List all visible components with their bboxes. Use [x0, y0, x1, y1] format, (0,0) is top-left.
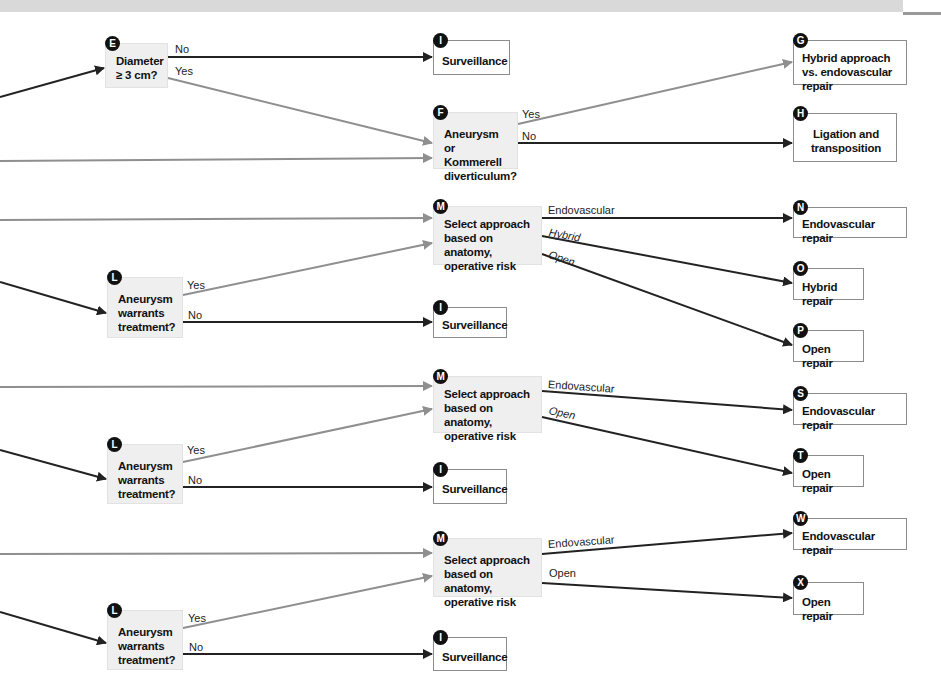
marker-L-icon: L — [107, 437, 122, 452]
edge-label-E-yes: Yes — [175, 65, 193, 77]
node-T-label: Open repair — [802, 468, 833, 494]
edge-label-L1-no: No — [188, 309, 202, 321]
node-M2-select-approach: M Select approach based on anatomy, oper… — [433, 376, 542, 433]
node-X-label: Open repair — [802, 596, 833, 622]
edge-label-F-no: No — [522, 130, 536, 142]
marker-L-icon: L — [107, 603, 122, 618]
node-L2-label: Aneurysm warrants treatment? — [118, 460, 175, 500]
marker-P-icon: P — [793, 323, 808, 338]
arrow-into-M2 — [0, 386, 432, 387]
node-I1-label: Surveillance — [442, 55, 507, 67]
arrow-into-M1 — [0, 218, 432, 220]
edge-label-L3-yes: Yes — [188, 612, 206, 624]
node-G-hybrid-vs-endovascular: G Hybrid approach vs. endovascular repai… — [793, 40, 907, 85]
marker-L-icon: L — [107, 270, 122, 285]
edge-label-L1-yes: Yes — [187, 279, 205, 291]
marker-W-icon: W — [793, 511, 808, 526]
marker-X-icon: X — [793, 575, 808, 590]
marker-I-icon: I — [433, 300, 448, 315]
node-T-open: T Open repair — [793, 455, 864, 487]
edge-label-M1-endovascular: Endovascular — [548, 204, 615, 216]
node-E-label: Diameter ≥ 3 cm? — [116, 55, 164, 81]
node-I3-label: Surveillance — [442, 483, 507, 495]
node-F-aneurysm-kommerell: F Aneurysm or Kommerell diverticulum? — [433, 112, 518, 169]
node-L3-label: Aneurysm warrants treatment? — [118, 626, 175, 666]
marker-M-icon: M — [433, 531, 448, 546]
arrow-into-L3 — [0, 612, 106, 643]
node-P-open: P Open repair — [793, 330, 864, 362]
node-O-hybrid: O Hybrid repair — [793, 268, 864, 300]
arrow-into-E — [0, 68, 104, 97]
node-E-diameter-check: E Diameter ≥ 3 cm? — [105, 43, 168, 88]
node-L1-label: Aneurysm warrants treatment? — [118, 293, 175, 333]
marker-I-icon: I — [433, 462, 448, 477]
node-M1-label: Select approach based on anatomy, operat… — [444, 218, 530, 272]
arrow-into-L1 — [0, 282, 106, 313]
marker-F-icon: F — [433, 105, 448, 120]
marker-O-icon: O — [793, 261, 808, 276]
node-X-open: X Open repair — [793, 582, 864, 615]
marker-H-icon: H — [793, 106, 808, 121]
node-I3-surveillance: I Surveillance — [433, 469, 507, 504]
node-L2-warrants-treatment: L Aneurysm warrants treatment? — [107, 444, 183, 504]
node-F-label: Aneurysm or Kommerell diverticulum? — [444, 128, 517, 182]
node-M1-select-approach: M Select approach based on anatomy, oper… — [433, 206, 542, 265]
node-I4-surveillance: I Surveillance — [433, 637, 507, 671]
node-I4-label: Surveillance — [442, 651, 507, 663]
edge-label-L2-yes: Yes — [187, 444, 205, 456]
marker-N-icon: N — [793, 200, 808, 215]
marker-I-icon: I — [433, 630, 448, 645]
edge-label-F-yes: Yes — [522, 108, 540, 120]
marker-I-icon: I — [433, 33, 448, 48]
marker-M-icon: M — [433, 369, 448, 384]
node-L3-warrants-treatment: L Aneurysm warrants treatment? — [107, 610, 183, 670]
node-I1-surveillance: I Surveillance — [433, 40, 510, 75]
node-W-endovascular: W Endovascular repair — [793, 518, 907, 550]
node-H-label: Ligation and transposition — [811, 128, 881, 154]
marker-S-icon: S — [793, 386, 808, 401]
arrow-into-F — [0, 158, 432, 161]
marker-M-icon: M — [433, 199, 448, 214]
edge-label-L2-no: No — [188, 474, 202, 486]
node-I2-label: Surveillance — [442, 319, 507, 331]
edge-label-L3-no: No — [189, 641, 203, 653]
arrow-into-L2 — [0, 450, 106, 479]
edge-label-E-no: No — [175, 43, 189, 55]
node-P-label: Open repair — [802, 343, 833, 369]
edge-label-M3-open: Open — [549, 567, 576, 579]
marker-E-icon: E — [105, 36, 120, 51]
marker-T-icon: T — [793, 448, 808, 463]
node-L1-warrants-treatment: L Aneurysm warrants treatment? — [107, 277, 183, 338]
node-H-ligation: H Ligation and transposition — [793, 113, 897, 162]
arrow-into-M3 — [0, 553, 432, 554]
node-S-endovascular: S Endovascular repair — [793, 393, 907, 425]
marker-G-icon: G — [793, 33, 808, 48]
node-O-label: Hybrid repair — [802, 281, 837, 307]
node-N-endovascular: N Endovascular repair — [793, 207, 907, 238]
node-M3-select-approach: M Select approach based on anatomy, oper… — [433, 538, 542, 597]
node-I2-surveillance: I Surveillance — [433, 307, 507, 338]
